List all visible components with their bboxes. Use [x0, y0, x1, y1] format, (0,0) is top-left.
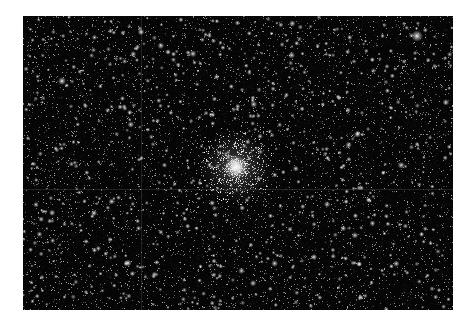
star-field-image: [23, 16, 453, 310]
page: Globular star cluster in a dense star fi…: [0, 0, 475, 324]
star-field-canvas: [23, 16, 453, 310]
